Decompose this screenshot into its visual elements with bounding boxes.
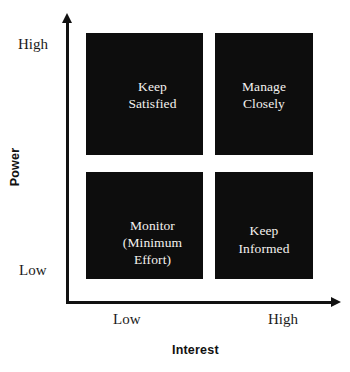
quadrant-manage-closely: Manage Closely — [215, 33, 313, 155]
quadrant-monitor-line-2: (Minimum — [123, 234, 182, 251]
x-axis-title: Interest — [172, 343, 219, 357]
quadrant-monitor-line-3: Effort) — [123, 251, 182, 268]
x-axis-tick-high: High — [268, 311, 298, 328]
stakeholder-matrix-figure: Keep Satisfied Manage Closely Monitor (M… — [0, 0, 350, 372]
quadrant-monitor-line-1: Monitor — [123, 217, 182, 234]
y-axis-tick-high: High — [18, 36, 48, 53]
quadrant-keep-satisfied: Keep Satisfied — [86, 33, 203, 155]
quadrant-keep-informed-label: Keep Informed — [238, 222, 289, 257]
quadrant-keep-informed-line-1: Keep — [238, 222, 289, 239]
y-axis-tick-low: Low — [19, 262, 47, 279]
quadrant-monitor: Monitor (Minimum Effort) — [86, 172, 203, 279]
quadrant-manage-closely-line-1: Manage — [242, 78, 286, 95]
quadrant-keep-satisfied-line-1: Keep — [128, 78, 176, 95]
y-axis-arrow-icon — [62, 13, 72, 23]
y-axis-title: Power — [8, 148, 22, 187]
quadrant-manage-closely-line-2: Closely — [242, 95, 286, 112]
x-axis-tick-low: Low — [113, 311, 141, 328]
quadrant-keep-satisfied-label: Keep Satisfied — [128, 78, 176, 113]
quadrant-keep-satisfied-line-2: Satisfied — [128, 95, 176, 112]
quadrant-keep-informed: Keep Informed — [215, 172, 313, 279]
quadrant-keep-informed-line-2: Informed — [238, 240, 289, 257]
quadrant-grid: Keep Satisfied Manage Closely Monitor (M… — [86, 33, 313, 279]
x-axis-arrow-icon — [331, 297, 341, 307]
x-axis-line — [66, 301, 334, 304]
quadrant-monitor-label: Monitor (Minimum Effort) — [123, 217, 182, 269]
quadrant-manage-closely-label: Manage Closely — [242, 78, 286, 113]
y-axis-line — [66, 22, 69, 304]
